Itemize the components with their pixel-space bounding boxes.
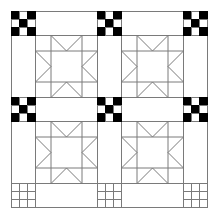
dark-square: [192, 20, 200, 28]
light-square: [20, 184, 28, 192]
light-square: [12, 20, 20, 28]
dark-square: [12, 98, 20, 106]
sashing-vertical: [12, 122, 36, 184]
light-square: [20, 12, 28, 20]
light-square: [98, 200, 106, 208]
sashing-vertical: [184, 36, 208, 98]
checkerboard-cornerstone: [98, 98, 122, 122]
dark-square: [98, 12, 106, 20]
light-square: [12, 200, 20, 208]
light-square: [192, 98, 200, 106]
sashing-horizontal: [122, 98, 184, 122]
light-square: [28, 106, 36, 114]
light-square: [28, 20, 36, 28]
dark-square: [106, 20, 114, 28]
light-square: [184, 192, 192, 200]
dark-square: [184, 98, 192, 106]
dark-square: [28, 28, 36, 36]
light-square: [192, 192, 200, 200]
star-block: [122, 36, 184, 98]
checkerboard-cornerstone: [184, 98, 208, 122]
star-block: [36, 122, 98, 184]
light-square: [114, 184, 122, 192]
dark-square: [20, 20, 28, 28]
sashing-horizontal: [36, 12, 98, 36]
light-square: [184, 184, 192, 192]
checkerboard-cornerstone: [184, 12, 208, 36]
sashing-horizontal: [122, 184, 184, 208]
sashing-vertical: [98, 122, 122, 184]
sashing-vertical: [98, 36, 122, 98]
dark-square: [98, 114, 106, 122]
sashing-horizontal: [36, 98, 98, 122]
dark-square: [20, 106, 28, 114]
light-square: [28, 184, 36, 192]
checkerboard-cornerstone: [12, 12, 36, 36]
dark-square: [200, 28, 208, 36]
light-square: [200, 184, 208, 192]
checkerboard-cornerstone: [98, 12, 122, 36]
dark-square: [184, 28, 192, 36]
light-square: [106, 114, 114, 122]
light-square: [114, 106, 122, 114]
light-square: [114, 200, 122, 208]
sashing-horizontal: [36, 184, 98, 208]
light-square: [192, 184, 200, 192]
dark-square: [106, 106, 114, 114]
dark-square: [12, 12, 20, 20]
block-border: [122, 122, 184, 184]
light-square: [106, 192, 114, 200]
dark-square: [200, 98, 208, 106]
dark-square: [114, 12, 122, 20]
light-square: [20, 98, 28, 106]
light-square: [20, 200, 28, 208]
light-square: [192, 114, 200, 122]
light-square: [114, 20, 122, 28]
dark-square: [98, 28, 106, 36]
dark-square: [12, 114, 20, 122]
light-square: [12, 184, 20, 192]
dark-square: [28, 114, 36, 122]
dark-square: [28, 98, 36, 106]
sashing-horizontal: [122, 12, 184, 36]
light-square: [98, 20, 106, 28]
checkerboard-cornerstone: [12, 98, 36, 122]
light-square: [12, 192, 20, 200]
light-square: [184, 106, 192, 114]
light-square: [20, 192, 28, 200]
light-square: [20, 28, 28, 36]
light-square: [106, 98, 114, 106]
star-block: [122, 122, 184, 184]
dark-square: [12, 28, 20, 36]
grid-cornerstone: [98, 184, 122, 208]
sashing-vertical: [184, 122, 208, 184]
light-square: [192, 28, 200, 36]
star-block: [36, 36, 98, 98]
light-square: [192, 200, 200, 208]
dark-square: [114, 28, 122, 36]
light-square: [200, 106, 208, 114]
dark-square: [114, 98, 122, 106]
light-square: [98, 106, 106, 114]
block-border: [36, 36, 98, 98]
block-border: [36, 122, 98, 184]
grid-cornerstone: [12, 184, 36, 208]
light-square: [192, 12, 200, 20]
light-square: [184, 200, 192, 208]
dark-square: [98, 98, 106, 106]
dark-square: [200, 12, 208, 20]
light-square: [12, 106, 20, 114]
block-border: [122, 36, 184, 98]
light-square: [106, 28, 114, 36]
light-square: [184, 20, 192, 28]
light-square: [98, 184, 106, 192]
light-square: [98, 192, 106, 200]
dark-square: [114, 114, 122, 122]
light-square: [106, 184, 114, 192]
dark-square: [28, 12, 36, 20]
dark-square: [200, 114, 208, 122]
light-square: [28, 192, 36, 200]
dark-square: [184, 114, 192, 122]
light-square: [200, 200, 208, 208]
quilt-diagram: [0, 0, 216, 217]
